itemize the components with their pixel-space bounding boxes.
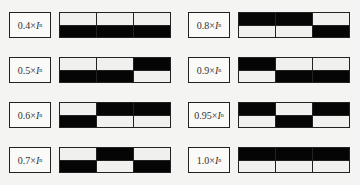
- top-cell-off: [313, 58, 349, 70]
- pattern-item: 0.9×In: [188, 57, 350, 83]
- switch-pattern-grid: [59, 57, 171, 83]
- pattern-item: 0.7×In: [9, 147, 171, 173]
- unit-subscript: n: [218, 157, 221, 163]
- coefficient-text: 0.9: [197, 65, 210, 76]
- top-cell-on: [239, 148, 275, 160]
- switch-pattern-grid: [238, 57, 350, 83]
- unit-subscript: n: [39, 157, 42, 163]
- coefficient-text: 0.95: [194, 110, 212, 121]
- bottom-cell-off: [239, 116, 275, 128]
- unit-subscript: n: [221, 112, 224, 118]
- current-level-label: 0.6×In: [9, 102, 51, 128]
- bottom-cell-on: [60, 161, 96, 173]
- switch-pattern-grid: [59, 102, 171, 128]
- coefficient-text: 0.8: [197, 20, 210, 31]
- bottom-cell-on: [313, 26, 349, 38]
- switch-pattern-grid: [59, 147, 171, 173]
- top-cell-on: [97, 148, 133, 160]
- top-cell-on: [134, 103, 170, 115]
- top-cell-off: [313, 13, 349, 25]
- coefficient-text: 1.0: [197, 155, 210, 166]
- unit-subscript: n: [39, 67, 42, 73]
- top-cell-off: [134, 148, 170, 160]
- top-cell-on: [313, 148, 349, 160]
- bottom-cell-on: [60, 116, 96, 128]
- top-cell-off: [60, 148, 96, 160]
- unit-subscript: n: [218, 22, 221, 28]
- pattern-item: 0.95×In: [188, 102, 350, 128]
- bottom-cell-off: [97, 161, 133, 173]
- coefficient-text: 0.7: [18, 155, 31, 166]
- top-cell-on: [276, 148, 312, 160]
- bottom-cell-off: [239, 71, 275, 83]
- switch-pattern-grid: [59, 12, 171, 38]
- top-cell-off: [276, 103, 312, 115]
- current-level-label: 0.8×In: [188, 12, 230, 38]
- bottom-cell-off: [97, 116, 133, 128]
- pattern-item: 0.5×In: [9, 57, 171, 83]
- bottom-cell-off: [239, 161, 275, 173]
- top-cell-on: [239, 13, 275, 25]
- bottom-cell-off: [313, 161, 349, 173]
- top-cell-off: [60, 13, 96, 25]
- pattern-item: 1.0×In: [188, 147, 350, 173]
- bottom-cell-on: [134, 26, 170, 38]
- unit-subscript: n: [218, 67, 221, 73]
- top-cell-off: [60, 103, 96, 115]
- top-cell-off: [134, 13, 170, 25]
- top-cell-off: [60, 58, 96, 70]
- current-level-label: 0.5×In: [9, 57, 51, 83]
- bottom-cell-on: [313, 71, 349, 83]
- current-level-label: 0.9×In: [188, 57, 230, 83]
- top-cell-on: [97, 103, 133, 115]
- bottom-cell-on: [97, 26, 133, 38]
- bottom-cell-on: [276, 116, 312, 128]
- bottom-cell-off: [134, 116, 170, 128]
- switch-pattern-grid: [238, 147, 350, 173]
- bottom-cell-off: [134, 71, 170, 83]
- current-level-label: 0.95×In: [188, 102, 230, 128]
- top-cell-on: [239, 58, 275, 70]
- bottom-cell-on: [276, 71, 312, 83]
- top-cell-off: [97, 58, 133, 70]
- bottom-cell-off: [276, 26, 312, 38]
- current-level-label: 0.7×In: [9, 147, 51, 173]
- current-level-label: 1.0×In: [188, 147, 230, 173]
- unit-subscript: n: [39, 112, 42, 118]
- bottom-cell-on: [134, 161, 170, 173]
- coefficient-text: 0.4: [18, 20, 31, 31]
- bottom-cell-on: [60, 71, 96, 83]
- coefficient-text: 0.5: [18, 65, 31, 76]
- top-cell-off: [97, 13, 133, 25]
- switch-pattern-grid: [238, 102, 350, 128]
- top-cell-off: [276, 58, 312, 70]
- bottom-cell-on: [97, 71, 133, 83]
- pattern-item: 0.4×In: [9, 12, 171, 38]
- top-cell-on: [276, 13, 312, 25]
- coefficient-text: 0.6: [18, 110, 31, 121]
- top-cell-on: [134, 58, 170, 70]
- bottom-cell-off: [239, 26, 275, 38]
- pattern-item: 0.6×In: [9, 102, 171, 128]
- pattern-item: 0.8×In: [188, 12, 350, 38]
- unit-subscript: n: [39, 22, 42, 28]
- bottom-cell-off: [313, 116, 349, 128]
- bottom-cell-on: [60, 26, 96, 38]
- current-level-label: 0.4×In: [9, 12, 51, 38]
- top-cell-on: [313, 103, 349, 115]
- top-cell-on: [239, 103, 275, 115]
- bottom-cell-off: [276, 161, 312, 173]
- switch-pattern-grid: [238, 12, 350, 38]
